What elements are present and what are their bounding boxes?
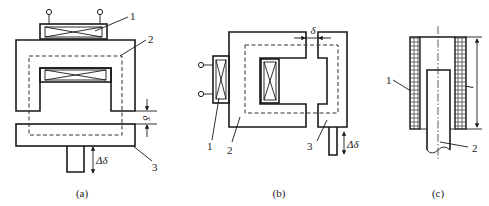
- coil-1-inner: [40, 68, 111, 82]
- label-armature: 3: [307, 140, 313, 152]
- panel-b: δ Δδ 1 2 3 (b): [198, 24, 359, 200]
- gap-symbol: δ: [310, 24, 316, 36]
- coil-1-top: [40, 9, 107, 39]
- panel-a: δ Δδ 1 2 3 (a): [16, 9, 158, 200]
- terminal-icon: [97, 9, 102, 14]
- terminal-icon: [46, 9, 51, 14]
- caption-a: (a): [76, 187, 89, 200]
- sensor-diagram: δ Δδ 1 2 3 (a): [0, 0, 489, 206]
- label-plunger: 2: [472, 142, 478, 154]
- flux-path: [245, 45, 338, 113]
- armature-stem: [329, 127, 337, 155]
- terminal-icon: [198, 91, 203, 96]
- length-symbol: l: [463, 85, 475, 88]
- terminal-icon: [198, 62, 203, 67]
- label-coil: 1: [386, 74, 392, 86]
- break-line: [427, 147, 450, 153]
- panel-c: l 1 2 (c): [386, 26, 482, 200]
- label-armature: 3: [152, 161, 158, 173]
- caption-b: (b): [273, 187, 286, 200]
- coil-1-left-wall: [410, 37, 420, 129]
- core-2: [16, 40, 135, 111]
- label-coil: 1: [130, 10, 136, 22]
- coil-1: [198, 56, 229, 103]
- armature-stem: [67, 146, 84, 172]
- coil-1-inner: [261, 59, 279, 103]
- gap-symbol: δ: [141, 115, 153, 121]
- coil-1-right-wall: [455, 37, 466, 129]
- label-coil: 1: [207, 140, 213, 152]
- caption-c: (c): [432, 187, 445, 200]
- displacement-symbol: Δδ: [346, 138, 359, 150]
- label-core: 2: [148, 33, 154, 45]
- plunger-2: [427, 70, 450, 150]
- displacement-symbol: Δδ: [95, 154, 108, 166]
- label-core: 2: [227, 144, 233, 156]
